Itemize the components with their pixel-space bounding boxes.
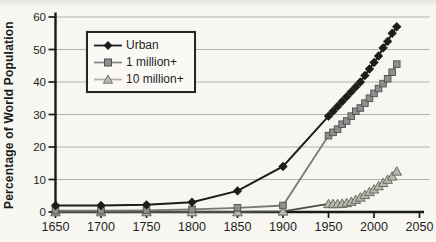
marker-diamond-1800: [188, 198, 197, 207]
legend-item-10-million: 10 million+: [93, 71, 184, 87]
x-tick-label-1700: 1700: [87, 220, 115, 234]
legend-label-1-million: 1 million+: [126, 55, 177, 69]
marker-diamond-1850: [233, 186, 242, 195]
legend-label-10-million: 10 million+: [126, 72, 184, 86]
x-tick-label-1650: 1650: [42, 220, 70, 234]
chart-legend: Urban 1 million+ 10 million+: [86, 31, 196, 93]
x-tick-label-2050: 2050: [406, 220, 434, 234]
y-tick-label-50: 50: [33, 44, 46, 56]
marker-square-2020: [389, 69, 396, 76]
y-tick-label-20: 20: [33, 141, 46, 153]
chart-canvas: 0102030405060165017001750180018501900195…: [0, 0, 436, 242]
one-million-square-marker-icon: [93, 57, 123, 68]
chart-plot: 0102030405060165017001750180018501900195…: [0, 0, 436, 242]
y-tick-label-10: 10: [33, 174, 46, 186]
y-tick-label-30: 30: [33, 109, 46, 121]
ten-million-triangle-marker-icon: [93, 74, 123, 85]
marker-square-1850: [234, 204, 241, 211]
marker-square-1900: [280, 202, 287, 209]
x-tick-label-1800: 1800: [178, 220, 206, 234]
x-tick-label-1950: 1950: [315, 220, 343, 234]
y-tick-label-40: 40: [33, 76, 46, 88]
marker-square-1800: [189, 206, 196, 213]
legend-item-urban: Urban: [93, 37, 184, 53]
urban-diamond-marker-icon: [93, 40, 123, 51]
x-tick-label-1850: 1850: [224, 220, 252, 234]
y-tick-label-60: 60: [33, 11, 46, 23]
y-tick-label-0: 0: [40, 206, 46, 218]
marker-triangle-2025: [392, 167, 402, 175]
legend-item-1-million: 1 million+: [93, 54, 184, 70]
marker-square-2015: [384, 75, 391, 82]
marker-square-2025: [393, 61, 400, 68]
x-tick-label-1900: 1900: [269, 220, 297, 234]
x-tick-label-2000: 2000: [360, 220, 388, 234]
legend-label-urban: Urban: [126, 38, 159, 52]
urbanization-chart-figure: Percentage of World Population 010203040…: [0, 0, 436, 242]
x-tick-label-1750: 1750: [133, 220, 161, 234]
